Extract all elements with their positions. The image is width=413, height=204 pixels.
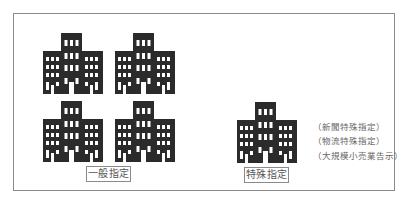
office-building-icon bbox=[115, 33, 175, 94]
office-building-icon bbox=[43, 33, 103, 94]
special-note-large-retail: （大規模小売業告示） bbox=[313, 151, 403, 161]
general-designation-label: 一般指定 bbox=[86, 166, 131, 182]
special-designation-label: 特殊指定 bbox=[244, 167, 289, 183]
office-building-icon bbox=[237, 102, 297, 163]
special-note-logistics: （物流特殊指定） bbox=[313, 136, 385, 146]
office-building-icon bbox=[43, 101, 103, 162]
special-note-newspaper: （新聞特殊指定） bbox=[313, 122, 385, 132]
office-building-icon bbox=[115, 101, 175, 162]
